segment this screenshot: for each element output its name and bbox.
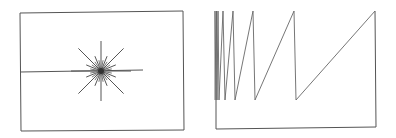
sawtooth-line <box>215 11 375 100</box>
right-frame <box>216 11 376 129</box>
center-dot <box>98 68 104 74</box>
sawtooth-figure <box>215 11 376 129</box>
starburst-ray <box>78 71 101 94</box>
starburst-ray <box>101 71 124 94</box>
starburst-ray <box>101 48 124 71</box>
starburst-ray <box>78 48 101 71</box>
starburst-figure <box>20 11 184 131</box>
diagram-canvas <box>0 0 396 138</box>
